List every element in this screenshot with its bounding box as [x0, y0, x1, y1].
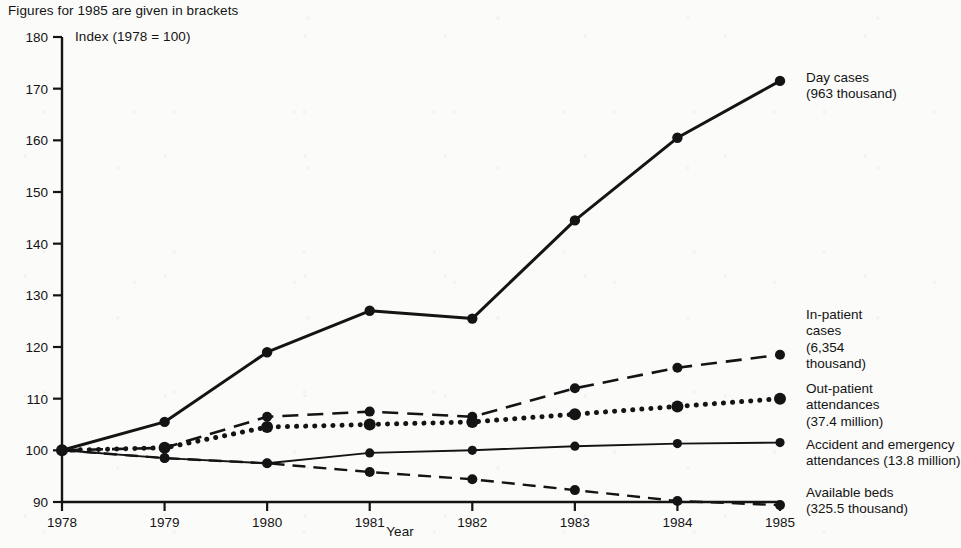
data-point-marker	[570, 215, 580, 225]
data-point-marker	[159, 442, 171, 454]
series-label-day-cases: Day cases (963 thousand)	[806, 70, 897, 103]
data-point-marker	[671, 400, 683, 412]
chart-axes: 90100110120130140150160170180 1978197919…	[25, 30, 795, 530]
data-point-marker	[468, 446, 477, 455]
series-label-in-patient-cases: In-patient cases (6,354 thousand)	[806, 307, 866, 373]
data-point-marker	[569, 408, 581, 420]
data-point-marker	[466, 416, 478, 428]
data-point-marker	[570, 442, 579, 451]
series-label-out-patient-attendances: Out-patient attendances (37.4 million)	[806, 381, 883, 430]
data-point-marker	[775, 500, 785, 510]
data-point-marker	[775, 350, 785, 360]
series-line	[62, 355, 780, 451]
y-tick-label: 170	[25, 82, 48, 97]
data-point-marker	[467, 313, 477, 323]
data-point-marker	[775, 438, 784, 447]
x-axis-ticks	[62, 502, 780, 511]
y-tick-label: 110	[26, 392, 48, 407]
series-line	[62, 450, 780, 505]
data-point-marker	[672, 133, 682, 143]
data-point-marker	[365, 448, 374, 457]
data-point-marker	[160, 453, 170, 463]
series-line	[62, 81, 780, 450]
data-point-marker	[570, 485, 580, 495]
y-tick-label: 90	[33, 495, 48, 510]
data-point-marker	[673, 439, 682, 448]
y-tick-label: 130	[25, 288, 48, 303]
data-point-marker	[262, 412, 272, 422]
data-point-marker	[467, 474, 477, 484]
data-point-marker	[365, 306, 375, 316]
y-tick-label: 160	[25, 133, 48, 148]
series-label-accident-emergency: Accident and emergency attendances (13.8…	[806, 437, 961, 470]
x-axis-title: Year	[0, 524, 800, 540]
data-point-marker	[774, 393, 786, 405]
data-point-marker	[672, 363, 682, 373]
data-point-marker	[261, 421, 273, 433]
y-tick-label: 180	[25, 30, 48, 45]
series-day-cases	[57, 76, 785, 456]
data-point-marker	[262, 458, 272, 468]
data-point-marker	[570, 383, 580, 393]
series-label-available-beds: Available beds (325.5 thousand)	[806, 485, 908, 518]
data-point-marker	[672, 496, 682, 506]
data-point-marker	[365, 467, 375, 477]
y-tick-label: 140	[25, 237, 48, 252]
data-point-marker	[364, 419, 376, 431]
data-point-marker	[775, 76, 785, 86]
y-axis-tick-labels: 90100110120130140150160170180	[25, 30, 48, 510]
data-point-marker	[365, 407, 375, 417]
data-point-marker	[262, 347, 272, 357]
data-point-marker	[159, 417, 169, 427]
series-available-beds	[57, 445, 785, 510]
y-axis-ticks	[53, 37, 62, 502]
y-tick-label: 100	[25, 443, 48, 458]
data-point-marker	[57, 445, 67, 455]
chart-series-layer	[56, 76, 786, 510]
y-tick-label: 150	[25, 185, 48, 200]
y-tick-label: 120	[25, 340, 48, 355]
